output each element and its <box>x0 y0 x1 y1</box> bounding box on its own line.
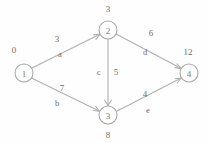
graph-canvas <box>0 0 207 143</box>
edge-line-a <box>32 34 100 68</box>
edge-line-d <box>116 34 181 69</box>
node-distance-2: 3 <box>106 5 111 14</box>
edge-weight-a: 3 <box>55 35 60 44</box>
node-label-4: 4 <box>187 69 192 78</box>
node-distance-3: 8 <box>106 131 111 140</box>
edge-weight-b: 7 <box>60 84 65 93</box>
edge-name-e: e <box>146 106 150 115</box>
node-distance-4: 12 <box>184 48 193 57</box>
node-distance-1: 0 <box>12 46 17 55</box>
node-label-1: 1 <box>22 69 27 78</box>
edge-weight-d: 6 <box>149 29 154 38</box>
edge-weight-e: 4 <box>143 90 148 99</box>
node-label-3: 3 <box>106 111 111 120</box>
edge-weight-c: 5 <box>114 68 119 77</box>
edge-name-b: b <box>55 99 59 108</box>
edge-name-d: d <box>143 48 147 57</box>
edge-name-a: a <box>58 50 62 59</box>
edge-name-c: c <box>97 68 101 77</box>
node-label-2: 2 <box>106 26 111 35</box>
graph-diagram: 1 2 3 4 0 3 8 12 3 7 5 6 4 a b c d e <box>0 0 207 143</box>
edge-line-b <box>32 78 100 111</box>
